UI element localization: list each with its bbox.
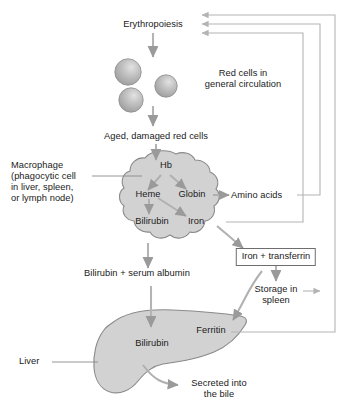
- label-secreted-into-bile: Secreted into the bile: [191, 378, 246, 400]
- diagram-canvas: Erythropoiesis Red cells in general circ…: [0, 0, 345, 412]
- label-amino-acids: Amino acids: [231, 190, 282, 201]
- label-bilirubin-serum-albumin: Bilirubin + serum albumin: [84, 268, 190, 279]
- label-bilirubin-liver: Bilirubin: [135, 338, 169, 349]
- label-iron-transferrin: Iron + transferrin: [236, 248, 316, 266]
- label-liver: Liver: [19, 356, 39, 367]
- label-bilirubin-macrophage: Bilirubin: [135, 216, 169, 227]
- label-hb: Hb: [160, 160, 172, 171]
- label-aged-damaged-red-cells: Aged, damaged red cells: [104, 131, 208, 142]
- label-red-cells: Red cells in general circulation: [205, 68, 281, 90]
- label-heme: Heme: [136, 189, 161, 200]
- label-globin: Globin: [178, 189, 205, 200]
- feedback-amino-acids: [202, 24, 320, 195]
- label-macrophage: Macrophage (phagocytic cell in liver, sp…: [11, 160, 76, 204]
- label-storage-in-spleen: Storage in spleen: [255, 284, 298, 306]
- label-iron: Iron: [188, 216, 204, 227]
- label-ferritin: Ferritin: [196, 325, 225, 336]
- label-erythropoiesis: Erythropoiesis: [123, 19, 183, 30]
- diagram-graphics: [0, 0, 345, 412]
- red-blood-cells: [115, 59, 177, 112]
